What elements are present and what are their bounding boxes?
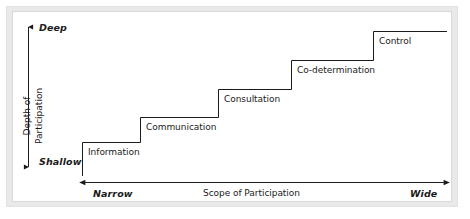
vertical-axis-caption: Depth of Participation	[22, 62, 44, 170]
vertical-axis-caption-line2: Participation	[33, 88, 45, 144]
horizontal-axis-caption: Scope of Participation	[203, 189, 300, 198]
axis-label-wide: Wide	[410, 189, 437, 199]
axis-label-shallow: Shallow	[39, 157, 82, 167]
vertical-axis-caption-line1: Depth of	[22, 88, 34, 144]
axis-label-deep: Deep	[39, 23, 67, 33]
step-label-control: Control	[379, 37, 411, 46]
step-label-information: Information	[88, 148, 140, 157]
step-label-consultation: Consultation	[224, 95, 280, 104]
step-label-co-determination: Co-determination	[297, 66, 375, 75]
figure-root: Deep Shallow Depth of Participation Info…	[0, 0, 470, 219]
axis-label-narrow: Narrow	[93, 189, 133, 199]
step-label-communication: Communication	[146, 123, 216, 132]
diagram-canvas	[0, 0, 470, 219]
